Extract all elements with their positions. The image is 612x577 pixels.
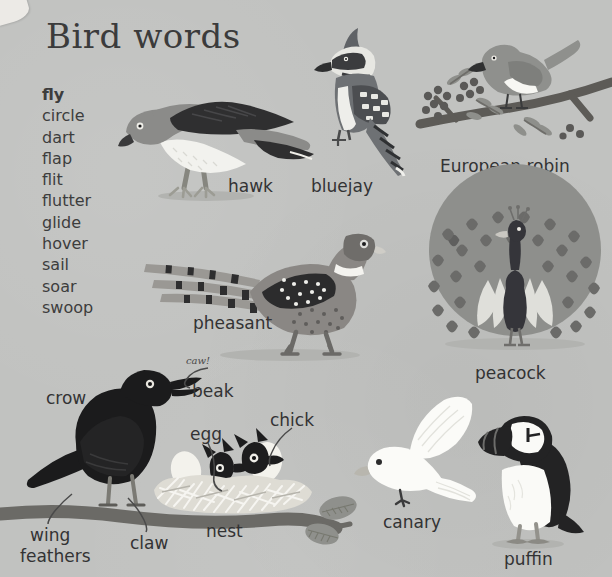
chick-leader-line (266, 428, 300, 468)
page-corner-fold (0, 0, 31, 26)
word-item-dart: dart (42, 127, 93, 148)
egg-leader-line (204, 443, 234, 493)
word-item-flap: flap (42, 148, 93, 169)
puffin-illustration (468, 412, 588, 552)
label-nest: nest (206, 521, 243, 541)
word-item-circle: circle (42, 105, 93, 126)
word-item-swoop: swoop (42, 297, 93, 318)
pheasant-illustration (140, 222, 380, 367)
label-chick: chick (270, 410, 314, 430)
word-item-flutter: flutter (42, 190, 93, 211)
claw-leader-line (124, 498, 160, 534)
label-bluejay: bluejay (311, 176, 373, 196)
label-canary: canary (383, 512, 441, 532)
word-item-flit: flit (42, 169, 93, 190)
label-caw: caw! (186, 355, 210, 366)
word-list: fly circle dart flap flit flutter glide … (42, 84, 93, 318)
word-item-glide: glide (42, 212, 93, 233)
label-wing-feathers-line2: feathers (20, 546, 91, 566)
wing-feathers-leader-line (40, 494, 76, 526)
peacock-illustration (418, 204, 612, 354)
illustrated-page: Bird words fly circle dart flap flit flu… (0, 0, 612, 577)
bluejay-illustration (312, 26, 422, 176)
european-robin-illustration (420, 24, 612, 154)
hawk-illustration (118, 92, 318, 202)
label-claw: claw (130, 533, 168, 553)
label-crow: crow (46, 388, 86, 408)
label-peacock: peacock (475, 363, 546, 383)
label-pheasant: pheasant (193, 313, 272, 333)
label-beak: beak (192, 381, 234, 401)
word-item-soar: soar (42, 276, 93, 297)
label-hawk: hawk (228, 176, 273, 196)
label-wing-feathers-line1: wing (30, 525, 70, 545)
canary-illustration (352, 396, 482, 521)
label-puffin: puffin (504, 549, 553, 569)
word-item-hover: hover (42, 233, 93, 254)
word-item-fly: fly (42, 84, 93, 105)
page-title: Bird words (46, 16, 241, 56)
word-item-sail: sail (42, 254, 93, 275)
label-egg: egg (190, 424, 222, 444)
